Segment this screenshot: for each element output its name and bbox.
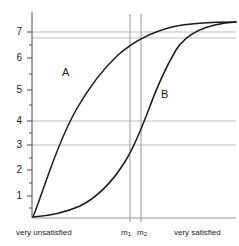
y-tick-label-5: 5 — [8, 85, 22, 95]
x-marker-label-m1: m1 — [121, 228, 131, 238]
x-marker-m2-base: m — [137, 228, 144, 237]
y-tick-label-6: 6 — [8, 53, 22, 63]
curve-b — [33, 22, 236, 217]
y-tick-label-3: 3 — [8, 140, 22, 150]
curve-a — [33, 22, 236, 217]
x-marker-m2-sub: 2 — [144, 231, 147, 237]
x-marker-label-m2: m2 — [137, 228, 147, 238]
chart-plot-area — [0, 0, 239, 246]
satisfaction-curve-chart: 7 6 5 4 3 2 1 A B very unsatisfied very … — [0, 0, 239, 246]
x-label-very-unsatisfied: very unsatisfied — [16, 228, 72, 237]
curve-a-label: A — [62, 67, 69, 78]
y-axis — [27, 12, 32, 218]
x-marker-m1-sub: 1 — [128, 231, 131, 237]
horizontal-gridlines — [32, 32, 236, 145]
y-tick-label-2: 2 — [8, 165, 22, 175]
y-tick-label-1: 1 — [8, 191, 22, 201]
x-label-very-satisfied: very satisfied — [174, 228, 221, 237]
y-tick-label-4: 4 — [8, 116, 22, 126]
curve-b-label: B — [161, 89, 168, 100]
y-tick-label-7: 7 — [8, 27, 22, 37]
x-marker-m1-base: m — [121, 228, 128, 237]
